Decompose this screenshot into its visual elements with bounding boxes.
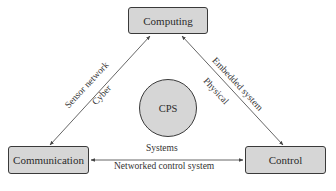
node-computing: Computing bbox=[128, 7, 208, 34]
node-cps-label: CPS bbox=[159, 103, 178, 114]
node-control-label: Control bbox=[269, 154, 303, 166]
edge-label-systems: Systems bbox=[146, 143, 178, 153]
node-control: Control bbox=[245, 146, 326, 174]
node-cps: CPS bbox=[139, 79, 197, 137]
node-computing-label: Computing bbox=[143, 15, 193, 27]
edge-label-networked-control-system: Networked control system bbox=[114, 161, 214, 171]
cps-diagram: Computing Communication Control CPS Sens… bbox=[0, 0, 336, 191]
node-communication-label: Communication bbox=[13, 154, 84, 166]
edge-computing-control bbox=[182, 36, 283, 145]
node-communication: Communication bbox=[8, 146, 89, 174]
